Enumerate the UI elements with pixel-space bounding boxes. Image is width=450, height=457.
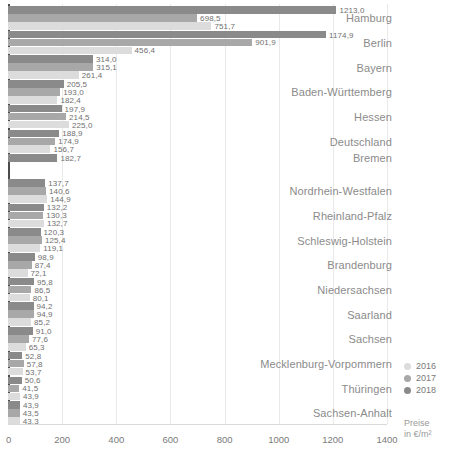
- plot-area: 1213,0698,5751,71174,9901,9456,4314,0315…: [8, 4, 387, 424]
- bar-2018[interactable]: [8, 55, 93, 63]
- bar-row: 214,5: [8, 113, 387, 121]
- bar-row: 901,9: [8, 39, 387, 47]
- bar-row: 91,0: [8, 327, 387, 335]
- bar-group: 188,9174,9156,7: [8, 130, 387, 154]
- bar-2016[interactable]: [8, 368, 23, 376]
- bar-2016[interactable]: [8, 47, 132, 55]
- bar-group: 1174,9901,9456,4: [8, 31, 387, 55]
- bar-row: 225,0: [8, 121, 387, 129]
- bar-value-label: 751,7: [211, 21, 235, 30]
- bar-2017[interactable]: [8, 409, 20, 417]
- bar-value-label: 156,7: [50, 145, 74, 154]
- bar-group: 98,987,472,1: [8, 253, 387, 277]
- x-tick-label: 800: [217, 434, 233, 445]
- bar-2017[interactable]: [8, 138, 55, 146]
- bar-2016[interactable]: [8, 318, 31, 326]
- bar-2016[interactable]: [8, 195, 47, 203]
- bar-2017[interactable]: [8, 212, 43, 220]
- bar-2018[interactable]: [8, 228, 41, 236]
- bar-2018[interactable]: [8, 204, 44, 212]
- bar-group: 91,077,665,3: [8, 327, 387, 351]
- bar-value-label: 182,7: [57, 154, 81, 163]
- bar-group: 95,886,580,1: [8, 278, 387, 302]
- bar-value-label: 119,1: [40, 244, 63, 253]
- bar-2016[interactable]: [8, 393, 20, 401]
- bar-2016[interactable]: [8, 145, 50, 153]
- bar-2018[interactable]: [8, 401, 20, 409]
- bar-groups: 1213,0698,5751,71174,9901,9456,4314,0315…: [8, 4, 387, 424]
- bar-2018[interactable]: [8, 31, 326, 39]
- bar-value-label: 80,1: [30, 293, 49, 302]
- bar-2018[interactable]: [8, 278, 34, 286]
- bar-row: 50,6: [8, 377, 387, 385]
- bar-value-label: 225,0: [69, 120, 93, 129]
- bar-row: 456,4: [8, 47, 387, 55]
- x-tick-label: 200: [54, 434, 70, 445]
- bar-row: 751,7: [8, 22, 387, 30]
- legend-item[interactable]: 2017: [404, 372, 436, 384]
- bar-row: 85,2: [8, 318, 387, 326]
- bar-2017[interactable]: [8, 113, 66, 121]
- bar-row: 156,7: [8, 145, 387, 153]
- bar-2018[interactable]: [8, 6, 336, 14]
- bar-group: 132,2130,3132,7: [8, 204, 387, 228]
- bar-2018[interactable]: [8, 105, 62, 113]
- legend-item[interactable]: 2018: [404, 384, 436, 396]
- bar-2017[interactable]: [8, 187, 46, 195]
- bar-2018[interactable]: [8, 130, 59, 138]
- bar-value-label: 261,4: [79, 71, 103, 80]
- bar-group: 137,7140,6144,9: [8, 179, 387, 203]
- bar-2016[interactable]: [8, 343, 26, 351]
- legend-label: 2018: [416, 385, 436, 395]
- bar-value-label: 144,9: [47, 194, 71, 203]
- bar-row: 72,1: [8, 269, 387, 277]
- bar-2017[interactable]: [8, 88, 60, 96]
- bar-2016[interactable]: [8, 22, 211, 30]
- bar-row: 315,1: [8, 63, 387, 71]
- bar-row: 182,7: [8, 154, 387, 162]
- legend-label: 2016: [416, 361, 436, 371]
- bar-2017[interactable]: [8, 360, 24, 368]
- legend-swatch-icon: [404, 387, 411, 394]
- bar-value-label: 1213,0: [336, 5, 364, 14]
- bar-group: 1213,0698,5751,7: [8, 6, 387, 30]
- bar-2017[interactable]: [8, 236, 42, 244]
- bar-2018[interactable]: [8, 302, 34, 310]
- bar-2016[interactable]: [8, 294, 30, 302]
- x-axis-title: Preise in €/m²: [404, 418, 448, 440]
- bar-row: 52,8: [8, 352, 387, 360]
- bar-2016[interactable]: [8, 220, 44, 228]
- bar-value-label: 53,7: [23, 367, 42, 376]
- bar-2018[interactable]: [8, 179, 45, 187]
- bar-row: 65,3: [8, 343, 387, 351]
- bar-2016[interactable]: [8, 121, 69, 129]
- bar-value-label: 65,3: [26, 342, 45, 351]
- bar-row: 43,9: [8, 393, 387, 401]
- bar-2017[interactable]: [8, 286, 31, 294]
- bar-2016[interactable]: [8, 96, 57, 104]
- x-tick-label: 1400: [376, 434, 397, 445]
- bar-2018[interactable]: [8, 80, 64, 88]
- bar-2017[interactable]: [8, 310, 34, 318]
- legend-item[interactable]: 2016: [404, 360, 436, 372]
- bar-row: 43,5: [8, 409, 387, 417]
- bar-2017[interactable]: [8, 39, 252, 47]
- bar-row: 95,8: [8, 278, 387, 286]
- bar-row: 314,0: [8, 55, 387, 63]
- bar-2018[interactable]: [8, 352, 22, 360]
- bar-2016[interactable]: [8, 244, 40, 252]
- bar-2018[interactable]: [8, 154, 57, 162]
- x-tick-label: 0: [6, 434, 11, 445]
- bar-2017[interactable]: [8, 385, 19, 393]
- bar-group: 120,3125,4119,1: [8, 228, 387, 252]
- bar-value-label: 132,7: [44, 219, 68, 228]
- bar-group: 52,857,853,7: [8, 352, 387, 376]
- bar-value-label: 43,9: [20, 392, 39, 401]
- bar-2016[interactable]: [8, 269, 28, 277]
- bar-row: 77,6: [8, 335, 387, 343]
- bar-2017[interactable]: [8, 14, 197, 22]
- bar-2016[interactable]: [8, 71, 79, 79]
- axis-title-line1: Preise: [404, 418, 448, 429]
- bar-row: 94,9: [8, 310, 387, 318]
- legend-swatch-icon: [404, 375, 411, 382]
